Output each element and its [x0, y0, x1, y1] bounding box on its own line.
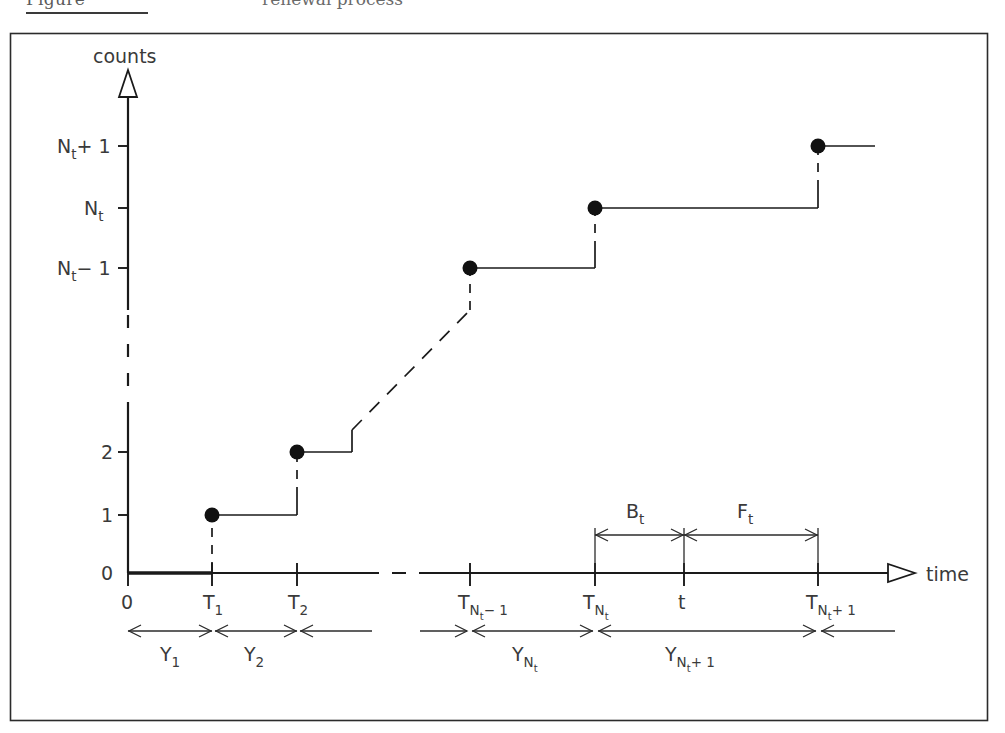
svg-text:TNt− 1: TNt− 1 [457, 591, 508, 622]
step-diagonal-break [352, 310, 470, 430]
interval-arrow-ynm1-partial [420, 625, 467, 637]
interval-label-yntp1: YNt+ 1 [664, 643, 715, 674]
svg-text:T1: T1 [202, 591, 223, 618]
svg-text:Y1: Y1 [159, 643, 180, 670]
interval-label-ynt: YNt [511, 643, 538, 674]
interval-arrow-yntp1 [598, 625, 816, 637]
svg-text:Bt: Bt [626, 500, 644, 527]
svg-text:TNt: TNt [582, 591, 609, 622]
interval-arrow-ft [684, 529, 818, 541]
x-tick-label-tn: TNt [582, 591, 609, 622]
interval-arrow-bt [595, 529, 684, 541]
y-tick-label-nt-plus-1: Nt+ 1 [57, 135, 111, 162]
interval-label-bt: Bt [626, 500, 644, 527]
svg-text:Nt− 1: Nt− 1 [57, 257, 111, 284]
svg-text:YNt: YNt [511, 643, 538, 674]
x-tick-label-tnm1: TNt− 1 [457, 591, 508, 622]
svg-text:TNt+ 1: TNt+ 1 [805, 591, 856, 622]
interval-arrow-y2 [215, 625, 297, 637]
renewal-process-figure: counts Nt+ 1 Nt Nt− 1 2 1 0 [0, 0, 1005, 733]
x-tick-label-t2: T2 [287, 591, 308, 618]
svg-text:Nt: Nt [84, 197, 104, 224]
step-dot-tn [588, 201, 603, 216]
interval-arrow-ynt [472, 625, 593, 637]
x-tick-label-0: 0 [121, 591, 133, 613]
figure-caption-label: Figure [26, 0, 85, 9]
svg-text:Ft: Ft [737, 500, 753, 527]
interval-arrow-y3-partial [300, 625, 372, 637]
step-dot-tnp1 [811, 139, 826, 154]
svg-text:YNt+ 1: YNt+ 1 [664, 643, 715, 674]
interval-label-y2: Y2 [243, 643, 264, 670]
x-tick-label-t1: T1 [202, 591, 223, 618]
y-tick-label-2: 2 [101, 441, 113, 463]
figure-caption-strip: Figure renewal process [0, 0, 1005, 16]
x-axis-label: time [926, 563, 969, 585]
step-dot-t1 [205, 508, 220, 523]
interval-arrow-y1 [128, 625, 212, 637]
figure-caption-text: renewal process [262, 0, 403, 9]
x-tick-label-t: t [678, 591, 685, 613]
svg-text:T2: T2 [287, 591, 308, 618]
step-dot-tnm1 [463, 261, 478, 276]
interval-label-ft: Ft [737, 500, 753, 527]
y-tick-label-nt: Nt [84, 197, 104, 224]
figure-caption-rule [26, 12, 148, 14]
y-axis-label: counts [93, 45, 157, 67]
figure-root: Figure renewal process counts Nt+ 1 [0, 0, 1005, 733]
interval-arrow-trailing-partial [821, 625, 895, 637]
svg-text:Nt+ 1: Nt+ 1 [57, 135, 111, 162]
svg-text:Y2: Y2 [243, 643, 264, 670]
y-tick-label-1: 1 [101, 504, 113, 526]
y-tick-label-0: 0 [101, 562, 113, 584]
x-tick-label-tnp1: TNt+ 1 [805, 591, 856, 622]
y-tick-label-nt-minus-1: Nt− 1 [57, 257, 111, 284]
y-axis-arrowhead [119, 70, 137, 97]
step-dot-t2 [290, 445, 305, 460]
x-axis-arrowhead [888, 564, 915, 582]
interval-label-y1: Y1 [159, 643, 180, 670]
